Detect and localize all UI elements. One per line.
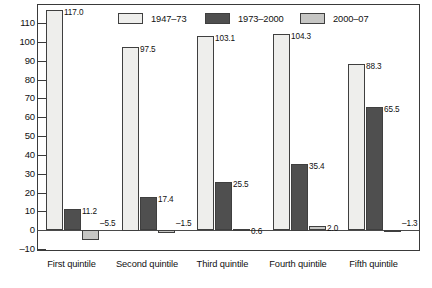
y-axis-tick: [38, 211, 46, 212]
y-axis-tick-label: 50: [2, 131, 35, 141]
y-axis-tick-label-wrap: 50: [0, 131, 35, 141]
y-axis-tick-label-wrap: 70: [0, 93, 35, 103]
y-axis-tick-label-wrap: 60: [0, 112, 35, 122]
bar: [158, 230, 175, 233]
bar-value-label: –1.3: [402, 220, 418, 228]
bar: [233, 229, 250, 231]
bar: [82, 230, 99, 240]
bar-value-label: –1.5: [176, 220, 192, 228]
y-axis-tick-label: 60: [2, 112, 35, 122]
legend-label: 2000–07: [333, 14, 369, 24]
y-axis-tick: [38, 193, 46, 194]
y-axis-tick-label: 10: [2, 206, 35, 216]
y-axis-tick-label: 100: [2, 37, 35, 47]
bar: [273, 34, 290, 230]
y-axis-tick: [38, 174, 46, 175]
category-label: Fourth quintile: [255, 259, 342, 269]
bar: [46, 10, 63, 230]
bar-chart: –100102030405060708090100110 117.011.2–5…: [0, 0, 432, 288]
y-axis-tick-label: 30: [2, 169, 35, 179]
y-axis-tick-label: 70: [2, 93, 35, 103]
y-axis-tick: [38, 42, 46, 43]
y-axis-tick-label-wrap: 90: [0, 56, 35, 66]
bar-value-label: 11.2: [82, 208, 97, 216]
bar: [384, 230, 401, 232]
bar-value-label: 2.0: [327, 225, 338, 233]
y-axis-tick-label: 110: [2, 18, 35, 28]
bar-value-label: 88.3: [366, 63, 382, 71]
bar: [140, 197, 157, 230]
y-axis-tick-label: 80: [2, 75, 35, 85]
bar-value-label: 65.5: [384, 106, 400, 114]
legend-swatch: [118, 13, 143, 24]
category-label: Third quintile: [179, 259, 266, 269]
y-axis-tick: [38, 61, 46, 62]
bar: [197, 36, 214, 230]
bar-value-label: 35.4: [309, 163, 325, 171]
y-axis-tick: [38, 80, 46, 81]
y-axis-tick-label-wrap: 20: [0, 188, 35, 198]
y-axis-tick-label: –10: [2, 244, 35, 254]
y-axis-tick-label-wrap: –10: [0, 244, 35, 254]
bar: [309, 226, 326, 230]
y-axis-tick: [38, 249, 46, 250]
bar: [348, 64, 365, 230]
category-label: Fifth quintile: [330, 259, 417, 269]
y-axis-tick-label: 40: [2, 150, 35, 160]
y-axis-tick: [38, 23, 46, 24]
y-axis-tick-label: 20: [2, 188, 35, 198]
y-axis-tick: [38, 155, 46, 156]
bar: [64, 209, 81, 230]
y-axis-tick: [38, 117, 46, 118]
category-label: Second quintile: [104, 259, 191, 269]
bar-value-label: 17.4: [158, 196, 174, 204]
bar-value-label: –5.5: [100, 220, 116, 228]
y-axis-tick-label-wrap: 40: [0, 150, 35, 160]
bar-value-label: 25.5: [233, 181, 249, 189]
y-axis-tick-label: 0: [2, 225, 35, 235]
bar-value-label: 0.6: [251, 228, 262, 236]
y-axis-tick-label-wrap: 0: [0, 225, 35, 235]
y-axis-tick-label-wrap: 100: [0, 37, 35, 47]
category-label: First quintile: [28, 259, 115, 269]
bar-value-label: 97.5: [140, 46, 156, 54]
y-axis-tick: [38, 136, 46, 137]
bar-value-label: 104.3: [291, 33, 311, 41]
y-axis-tick-label-wrap: 10: [0, 206, 35, 216]
y-axis-tick: [38, 98, 46, 99]
bar: [366, 107, 383, 230]
bar: [122, 47, 139, 231]
legend-swatch: [205, 13, 230, 24]
y-axis-tick-label: 90: [2, 56, 35, 66]
bar-value-label: 117.0: [64, 9, 83, 17]
y-axis-tick-label-wrap: 30: [0, 169, 35, 179]
legend-swatch: [300, 13, 325, 24]
legend-label: 1947–73: [151, 14, 187, 24]
y-axis-tick-label-wrap: 80: [0, 75, 35, 85]
bar: [291, 164, 308, 231]
legend-label: 1973–2000: [238, 14, 284, 24]
bar: [215, 182, 232, 230]
y-axis-tick-label-wrap: 110: [0, 18, 35, 28]
bar-value-label: 103.1: [215, 35, 235, 43]
